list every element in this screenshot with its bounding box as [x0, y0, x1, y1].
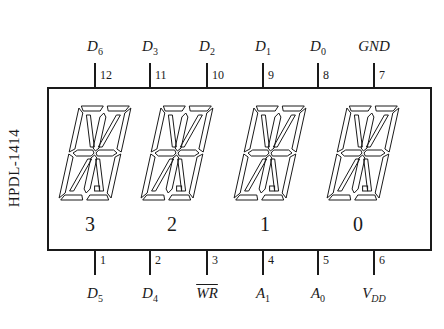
segment — [151, 108, 165, 152]
pin-number-10: 10 — [212, 69, 224, 81]
segment — [98, 115, 120, 147]
pin-number-2: 2 — [155, 254, 161, 266]
segment — [180, 115, 202, 147]
digit-2-segments — [141, 106, 213, 200]
segment — [73, 150, 94, 156]
segment — [364, 150, 385, 156]
digit-0-segments — [327, 106, 399, 200]
segment — [366, 115, 388, 147]
sixteen-segment-digits — [59, 106, 399, 200]
segment — [155, 150, 176, 156]
signal-label-gnd: GND — [358, 38, 390, 54]
signal-label-d5: D5 — [87, 285, 103, 307]
pin-number-9: 9 — [268, 69, 274, 81]
signal-label-a0: A0 — [311, 285, 325, 307]
segment — [375, 106, 397, 111]
segment — [244, 108, 258, 152]
signal-label-d6: D6 — [87, 38, 103, 60]
signal-label-d3: D3 — [142, 38, 158, 60]
segment — [282, 106, 304, 111]
signal-label-vdd: VDD — [362, 285, 386, 307]
pin-lines — [95, 63, 374, 275]
segment — [245, 159, 267, 191]
digit-position-label: 3 — [85, 214, 95, 234]
segment — [236, 195, 258, 200]
segment — [107, 154, 121, 198]
segment — [338, 159, 360, 191]
segment — [189, 154, 203, 198]
segment — [282, 154, 296, 198]
segment — [349, 106, 371, 111]
pin-number-4: 4 — [268, 254, 274, 266]
segment — [70, 159, 92, 191]
signal-label-d4: D4 — [142, 285, 158, 307]
digit-position-label: 1 — [260, 214, 270, 234]
segment — [248, 150, 269, 156]
digit-3-segments — [59, 106, 131, 200]
segment — [273, 115, 295, 147]
segment — [271, 150, 292, 156]
segment — [69, 108, 83, 152]
signal-label-wr: WR — [196, 285, 218, 301]
segment — [152, 159, 174, 191]
signal-label-d2: D2 — [199, 38, 215, 60]
segment — [262, 195, 284, 200]
segment — [86, 115, 94, 147]
segment — [107, 106, 129, 111]
segment — [337, 108, 351, 152]
signal-label-a1: A1 — [256, 285, 270, 307]
pin-number-1: 1 — [100, 254, 106, 266]
pin-number-5: 5 — [323, 254, 329, 266]
segment — [375, 154, 389, 198]
segment — [341, 150, 362, 156]
digit-position-label: 0 — [353, 214, 363, 234]
segment — [61, 195, 83, 200]
digit-position-label: 2 — [167, 214, 177, 234]
hpdl-1414-pinout-diagram: HPDL-1414 12D611D310D29D18D07GND1D52D43W… — [0, 0, 444, 329]
segment — [261, 115, 269, 147]
pin-number-7: 7 — [379, 69, 385, 81]
digit-1-segments — [234, 106, 306, 200]
segment — [189, 106, 211, 111]
segment — [81, 106, 103, 111]
segment — [87, 195, 109, 200]
segment — [256, 106, 278, 111]
segment — [169, 195, 191, 200]
signal-label-d0: D0 — [310, 38, 326, 60]
pin-number-11: 11 — [155, 69, 167, 81]
package-body — [48, 88, 431, 250]
segment — [96, 150, 117, 156]
segment — [329, 195, 351, 200]
part-number-label: HPDL-1414 — [6, 129, 23, 208]
pin-number-8: 8 — [323, 69, 329, 81]
segment — [143, 195, 165, 200]
pin-number-6: 6 — [379, 254, 385, 266]
pin-number-12: 12 — [100, 69, 112, 81]
signal-label-d1: D1 — [255, 38, 271, 60]
segment — [178, 150, 199, 156]
segment — [354, 115, 362, 147]
segment — [355, 195, 377, 200]
pin-number-3: 3 — [212, 254, 218, 266]
segment — [163, 106, 185, 111]
segment — [168, 115, 176, 147]
